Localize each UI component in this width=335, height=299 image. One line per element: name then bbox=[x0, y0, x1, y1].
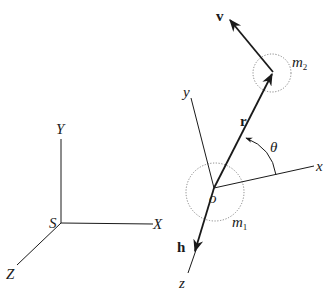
position-vector-r bbox=[214, 74, 272, 188]
inertial-origin-label: S bbox=[49, 215, 57, 231]
inertial-x-label: X bbox=[152, 216, 163, 232]
body-z-axis bbox=[188, 250, 196, 273]
inertial-frame: Y X Z S bbox=[6, 121, 163, 282]
body-y-label: y bbox=[181, 84, 190, 100]
velocity-vector-label: v bbox=[216, 8, 224, 24]
body-z-label: z bbox=[178, 275, 185, 291]
two-body-diagram: Y X Z S y x z o r v h θ m2 m1 bbox=[0, 0, 335, 299]
mass-m2-label: m2 bbox=[292, 54, 307, 72]
mass-m2-circle bbox=[253, 54, 291, 92]
mass-m1-label: m1 bbox=[232, 214, 247, 232]
inertial-x-axis bbox=[61, 223, 153, 224]
inertial-y-label: Y bbox=[56, 121, 66, 137]
position-vector-label: r bbox=[240, 113, 247, 129]
body-x-label: x bbox=[315, 158, 323, 174]
velocity-vector-v bbox=[230, 20, 273, 72]
angular-momentum-vector-h bbox=[195, 188, 214, 251]
angular-momentum-vector-label: h bbox=[177, 239, 186, 255]
inertial-z-label: Z bbox=[6, 266, 15, 282]
body-y-axis bbox=[191, 98, 214, 188]
theta-label: θ bbox=[270, 139, 278, 155]
body-x-axis bbox=[214, 166, 314, 188]
